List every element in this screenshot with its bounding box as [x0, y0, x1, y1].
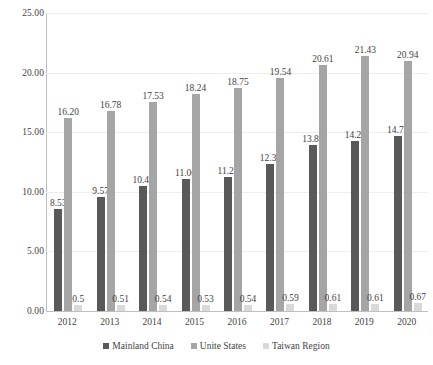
bar-group: 12.3119.540.59	[258, 13, 300, 311]
bar	[351, 141, 359, 311]
bar	[309, 145, 317, 311]
bar	[234, 88, 242, 312]
x-axis-tick-label: 2019	[343, 316, 385, 328]
legend-label: Mainland China	[112, 341, 173, 351]
bar	[117, 305, 125, 311]
bar-group: 8.5316.200.5	[46, 13, 88, 311]
bar	[159, 305, 167, 311]
bar	[64, 118, 72, 311]
bar	[414, 303, 422, 311]
bar	[319, 65, 327, 311]
bar	[276, 78, 284, 311]
bar	[139, 186, 147, 311]
bar-value-label: 0.67	[403, 292, 433, 302]
legend-swatch-icon	[263, 343, 269, 349]
bar-group: 9.5716.780.51	[88, 13, 130, 311]
legend-item[interactable]: Taiwan Region	[263, 341, 330, 351]
bar	[266, 164, 274, 311]
x-axis-tick-label: 2013	[88, 316, 130, 328]
bar-group: 13.8920.610.61	[301, 13, 343, 311]
bar-value-label: 20.61	[308, 54, 338, 64]
bar-value-label: 21.43	[350, 45, 380, 55]
y-axis-tick-label: 0.00	[4, 306, 44, 316]
y-axis-tick-label: 20.00	[4, 68, 44, 78]
x-axis-tick-label: 2016	[216, 316, 258, 328]
bar	[224, 177, 232, 311]
chart-legend: Mainland ChinaUnite StatesTaiwan Region	[0, 338, 433, 354]
legend-swatch-icon	[191, 343, 197, 349]
y-axis-tick-label: 25.00	[4, 8, 44, 18]
bar	[97, 197, 105, 311]
bar	[394, 136, 402, 311]
bar-group: 11.2318.750.54	[216, 13, 258, 311]
legend-label: Unite States	[200, 341, 246, 351]
bar-value-label: 20.94	[393, 50, 423, 60]
x-axis-tick-label: 2018	[301, 316, 343, 328]
x-axis-line	[46, 311, 428, 312]
bar-group: 10.4817.530.54	[131, 13, 173, 311]
bar	[361, 56, 369, 311]
y-axis-tick-label: 5.00	[4, 246, 44, 256]
bar	[54, 209, 62, 311]
bar-value-label: 16.78	[96, 100, 126, 110]
bar	[149, 102, 157, 311]
bar-group: 11.0618.240.53	[173, 13, 215, 311]
legend-swatch-icon	[103, 343, 109, 349]
bar	[286, 304, 294, 311]
bar	[371, 304, 379, 311]
bar-group: 14.2821.430.61	[343, 13, 385, 311]
bar-value-label: 17.53	[138, 91, 168, 101]
x-axis: 201220132014201520162017201820192020	[46, 316, 428, 332]
bar-value-label: 18.24	[181, 83, 211, 93]
bar-chart: 0.005.0010.0015.0020.0025.00 8.5316.200.…	[0, 0, 433, 365]
bar	[244, 305, 252, 311]
bar	[404, 61, 412, 311]
bar-value-label: 16.20	[53, 107, 83, 117]
bar	[329, 304, 337, 311]
x-axis-tick-label: 2020	[386, 316, 428, 328]
legend-item[interactable]: Mainland China	[103, 341, 173, 351]
bar-group: 14.7220.940.67	[386, 13, 428, 311]
plot-area: 8.5316.200.59.5716.780.5110.4817.530.541…	[46, 13, 428, 312]
bar-value-label: 19.54	[265, 67, 295, 77]
bar	[192, 94, 200, 311]
bar-value-label: 18.75	[223, 77, 253, 87]
bar	[74, 305, 82, 311]
legend-label: Taiwan Region	[272, 341, 330, 351]
bar	[182, 179, 190, 311]
y-axis: 0.005.0010.0015.0020.0025.00	[0, 0, 44, 365]
x-axis-tick-label: 2012	[46, 316, 88, 328]
bar	[202, 305, 210, 311]
bar	[107, 111, 115, 311]
legend-item[interactable]: Unite States	[191, 341, 246, 351]
x-axis-tick-label: 2015	[173, 316, 215, 328]
x-axis-tick-label: 2014	[131, 316, 173, 328]
y-axis-tick-label: 10.00	[4, 187, 44, 197]
y-axis-tick-label: 15.00	[4, 127, 44, 137]
x-axis-tick-label: 2017	[258, 316, 300, 328]
